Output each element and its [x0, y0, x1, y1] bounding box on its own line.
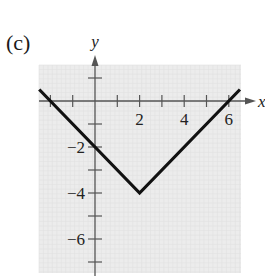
x-tick-label: 6: [225, 110, 234, 129]
x-axis-arrow-icon: [245, 98, 256, 105]
y-axis-arrow-icon: [92, 55, 99, 66]
x-tick-label: 4: [180, 110, 189, 129]
y-tick-label: −6: [67, 230, 85, 249]
y-axis-label: y: [89, 32, 99, 51]
y-tick-label: −4: [67, 184, 86, 203]
y-tick-label: −2: [67, 138, 85, 157]
x-axis-label: x: [257, 92, 265, 111]
chart: 246−2−4−6xy: [0, 0, 265, 279]
x-tick-label: 2: [135, 110, 144, 129]
